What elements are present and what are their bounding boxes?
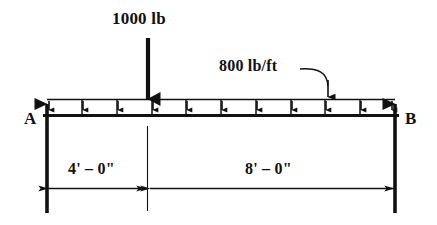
distributed-load-label: 800 lb/ft [219, 58, 277, 74]
dimension-label-left: 4' – 0" [68, 161, 115, 177]
beam-diagram: 1000 lb 800 lb/ft A B 4' – 0" 8' – 0" [0, 0, 437, 225]
support-label-b: B [405, 110, 417, 127]
diagram-canvas [0, 0, 437, 225]
support-label-a: A [24, 110, 36, 127]
dimension-label-right: 8' – 0" [245, 161, 292, 177]
load-band-dividers [82, 99, 360, 115]
distributed-load-leader [300, 69, 328, 86]
point-load-label: 1000 lb [112, 10, 166, 27]
distributed-load-band [47, 99, 395, 115]
